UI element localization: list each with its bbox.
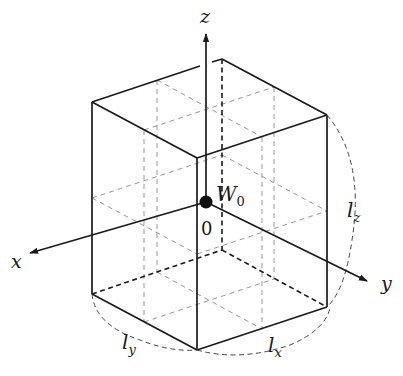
origin-point	[200, 196, 213, 209]
dimension-arcs	[92, 115, 355, 355]
box-coordinate-diagram: z x y W0 0 lz ly lx	[0, 0, 403, 376]
lz-label: lz	[347, 198, 360, 225]
y-axis	[206, 202, 367, 281]
y-axis-label: y	[380, 272, 392, 294]
x-axis-label: x	[11, 250, 22, 272]
ly-label: ly	[122, 330, 136, 357]
x-axis	[30, 202, 206, 253]
origin-point-label: W0	[216, 182, 245, 209]
lx-arc	[197, 308, 330, 355]
lx-label: lx	[268, 333, 282, 360]
origin-label: 0	[201, 218, 212, 239]
z-axis-label: z	[199, 5, 211, 27]
